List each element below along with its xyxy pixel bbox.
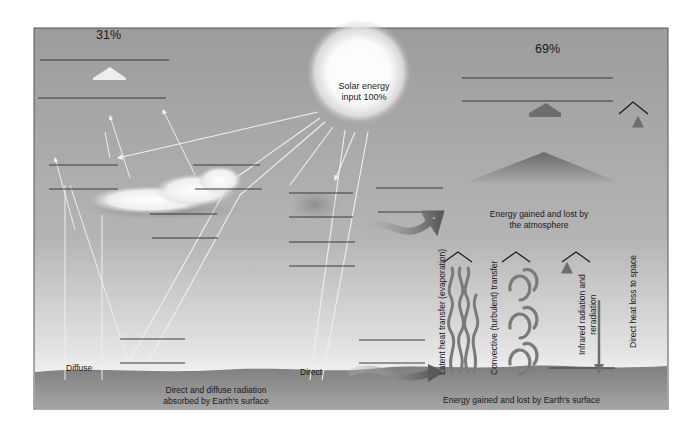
solar-input-text: Solar energy input 100% [338, 81, 389, 102]
latent-heat-label: Latent heat transfer (evaporation) [437, 249, 448, 375]
absorbed-percent-label: 69% [535, 42, 560, 58]
sun-icon [307, 20, 411, 124]
atmosphere-haze [290, 189, 340, 221]
infrared-radiation-text: Infrared radiation and reradiation [577, 274, 598, 355]
diffuse-label: Diffuse [66, 363, 92, 374]
reflected-percent-label: 31% [96, 28, 121, 44]
surface-absorbed-text: Direct and diffuse radiation absorbed by… [163, 385, 269, 406]
atmosphere-energy-label: Energy gained and lost by the atmosphere [490, 209, 588, 230]
surface-energy-label: Energy gained and lost by Earth's surfac… [443, 395, 600, 406]
direct-heat-loss-label: Direct heat loss to space [628, 255, 639, 348]
direct-label: Direct [300, 367, 322, 378]
convective-transfer-label: Convective (turbulent) transfer [489, 261, 500, 375]
atmosphere-energy-text: Energy gained and lost by the atmosphere [490, 209, 588, 230]
solar-input-label: Solar energy input 100% [338, 81, 389, 104]
surface-absorbed-label: Direct and diffuse radiation absorbed by… [163, 385, 269, 406]
infrared-radiation-label: Infrared radiation and reradiation [577, 274, 598, 355]
